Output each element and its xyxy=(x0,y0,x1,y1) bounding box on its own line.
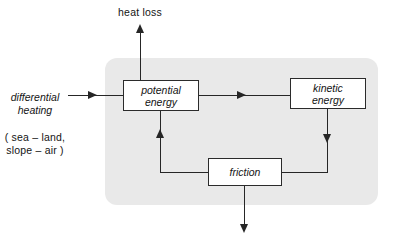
node-potential-energy-label: potential energy xyxy=(141,84,181,108)
differential-heating-label-group: differential heating ( sea – land, slope… xyxy=(2,78,68,170)
node-kinetic-energy[interactable]: kinetic energy xyxy=(290,78,366,109)
friction-output-shaft xyxy=(244,186,245,228)
heat-loss-arrow-shaft xyxy=(140,28,141,80)
friction-output-arrowhead-icon xyxy=(240,224,248,233)
node-friction-label: friction xyxy=(230,166,261,178)
friction-to-potential-shaft xyxy=(160,111,161,173)
kinetic-to-friction-arrowhead-icon xyxy=(323,134,331,143)
energy-flow-diagram: heat loss differential heating ( sea – l… xyxy=(0,0,395,244)
kinetic-to-friction-elbow xyxy=(282,172,328,173)
node-kinetic-energy-label: kinetic energy xyxy=(312,82,344,106)
heat-loss-label: heat loss xyxy=(93,6,187,19)
input-arrowhead-icon xyxy=(88,91,97,99)
potential-to-kinetic-arrowhead-icon xyxy=(237,91,246,99)
friction-to-potential-elbow xyxy=(160,172,208,173)
differential-heating-title: differential heating xyxy=(2,91,68,117)
heat-loss-arrowhead-icon xyxy=(136,24,144,33)
node-friction[interactable]: friction xyxy=(208,158,282,186)
differential-heating-detail: ( sea – land, slope – air ) xyxy=(2,131,68,157)
node-potential-energy[interactable]: potential energy xyxy=(123,80,199,111)
friction-to-potential-arrowhead-icon xyxy=(156,129,164,138)
